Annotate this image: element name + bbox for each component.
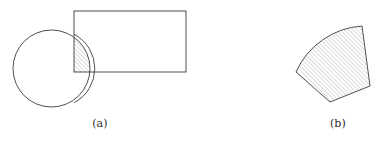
panel-b-group — [296, 26, 370, 102]
intersection-region — [74, 11, 186, 72]
panel-b-caption: (b) — [316, 117, 360, 130]
arc-polygon-shape — [296, 26, 370, 102]
rectangle-outline — [74, 11, 186, 72]
figure-container: (a) (b) — [0, 0, 388, 147]
panel-a-caption: (a) — [78, 117, 122, 130]
panel-a-group — [13, 11, 186, 107]
